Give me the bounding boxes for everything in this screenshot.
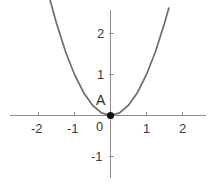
origin-label: 0 [96,120,103,133]
y-tick-label--1: -1 [91,150,103,163]
graph-figure: -2 -1 0 1 2 2 1 -1 A [0,0,216,190]
x-tick-label-1: 1 [143,122,150,135]
x-tick-label--2: -2 [31,122,43,135]
y-tick-label-1: 1 [97,68,104,81]
parabola-curve [50,0,169,116]
point-a-label: A [96,93,105,107]
y-axis-ticks [109,34,114,157]
point-a-marker [107,112,114,119]
x-tick-label--1: -1 [67,122,79,135]
x-tick-label-2: 2 [179,122,186,135]
y-tick-label-2: 2 [97,27,104,40]
coordinate-plot [0,0,216,190]
